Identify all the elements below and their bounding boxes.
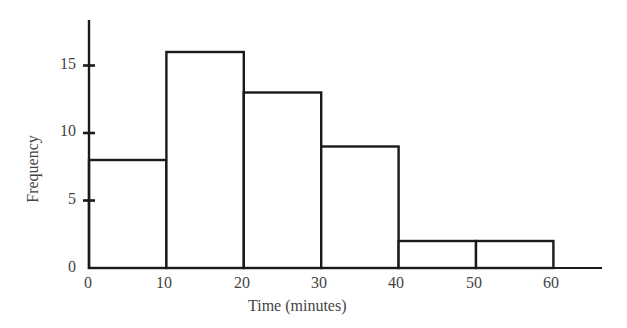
y-tick-label-15: 15 <box>60 55 76 73</box>
x-tick-label-10: 10 <box>156 274 172 292</box>
histogram-bar <box>244 93 321 269</box>
histogram-bar <box>89 160 166 268</box>
histogram-bar <box>166 52 243 268</box>
x-tick-label-40: 40 <box>388 274 404 292</box>
x-tick-label-30: 30 <box>311 274 327 292</box>
y-axis-label: Frequency <box>24 109 42 229</box>
histogram-bar <box>476 241 553 268</box>
histogram-bar <box>399 241 476 268</box>
y-tick-label-5: 5 <box>68 190 76 208</box>
histogram-bar <box>321 147 398 269</box>
x-axis-label: Time (minutes) <box>248 297 347 315</box>
x-tick-label-60: 60 <box>543 274 559 292</box>
y-tick-label-10: 10 <box>60 122 76 140</box>
x-tick-label-50: 50 <box>466 274 482 292</box>
x-tick-label-0: 0 <box>84 274 92 292</box>
x-tick-label-20: 20 <box>234 274 250 292</box>
y-tick-label-0: 0 <box>68 258 76 276</box>
